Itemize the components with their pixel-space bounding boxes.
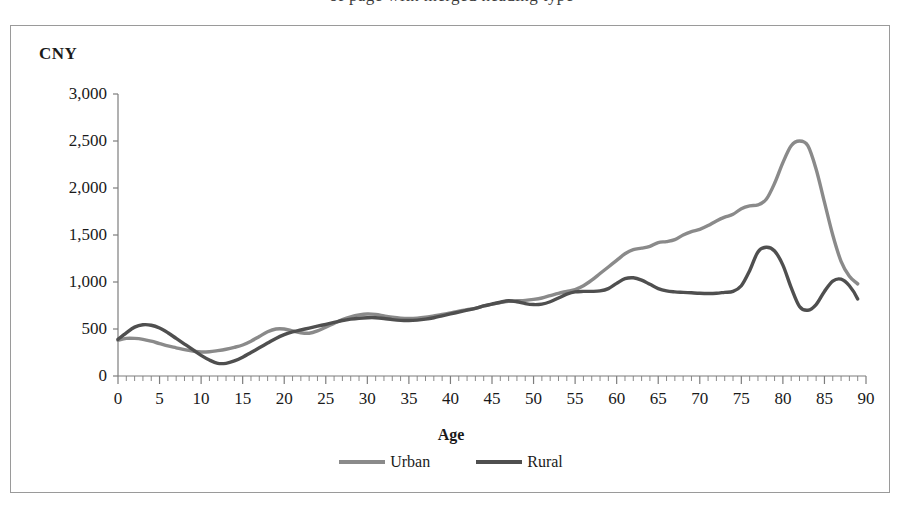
x-tick-label: 30 [359, 389, 376, 409]
x-tick-label: 10 [193, 389, 210, 409]
x-tick-label: 65 [650, 389, 667, 409]
x-tick-label: 55 [567, 389, 584, 409]
y-tick-label: 3,000 [69, 84, 107, 104]
x-axis-title: Age [11, 426, 891, 444]
y-tick-label: 2,000 [69, 178, 107, 198]
y-tick-label: 1,000 [69, 272, 107, 292]
x-tick-label: 5 [155, 389, 164, 409]
x-tick-label: 35 [400, 389, 417, 409]
x-tick-label: 25 [317, 389, 334, 409]
x-tick-label: 0 [114, 389, 123, 409]
x-tick-label: 75 [733, 389, 750, 409]
x-tick-label: 50 [525, 389, 542, 409]
data-series-urban [118, 141, 858, 352]
y-tick-label: 2,500 [69, 131, 107, 151]
x-tick-label: 90 [858, 389, 875, 409]
y-tick-label: 0 [99, 366, 108, 386]
legend-entry-rural: Rural [476, 454, 563, 470]
chart-canvas [11, 26, 891, 494]
chart-legend: Urban Rural [11, 454, 891, 470]
chart-plot-area: CNY 05001,0001,5002,0002,5003,0000510152… [11, 26, 891, 494]
x-tick-label: 15 [234, 389, 251, 409]
y-tick-label: 500 [82, 319, 108, 339]
x-tick-label: 45 [484, 389, 501, 409]
data-series-rural [118, 247, 858, 363]
legend-swatch-rural [476, 460, 522, 464]
legend-entry-urban: Urban [339, 454, 430, 470]
x-tick-label: 60 [608, 389, 625, 409]
page-top-text-fragment: of page with merged heading type [0, 0, 903, 8]
x-tick-label: 80 [774, 389, 791, 409]
legend-label-urban: Urban [390, 454, 430, 470]
x-tick-label: 85 [816, 389, 833, 409]
y-tick-label: 1,500 [69, 225, 107, 245]
x-tick-label: 20 [276, 389, 293, 409]
figure-frame: CNY 05001,0001,5002,0002,5003,0000510152… [10, 25, 890, 493]
legend-label-rural: Rural [527, 454, 563, 470]
legend-swatch-urban [339, 460, 385, 464]
x-tick-label: 70 [691, 389, 708, 409]
x-tick-label: 40 [442, 389, 459, 409]
